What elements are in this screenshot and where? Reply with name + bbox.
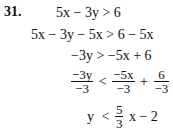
plus: + xyxy=(140,74,148,90)
step-5: y < 5 3 x − 2 xyxy=(87,103,160,130)
fraction-term1: −5x −3 xyxy=(112,68,134,95)
remainder: x − 2 xyxy=(129,109,158,125)
step-3: −3y > −5x + 6 xyxy=(71,48,152,64)
fraction-lhs: −3y −3 xyxy=(71,68,93,95)
relation: < xyxy=(102,109,110,125)
step-2: 5x − 3y − 5x > 6 − 5x xyxy=(31,27,154,43)
step-4: −3y −3 < −5x −3 + 6 −3 xyxy=(71,68,169,95)
fraction-coefficient: 5 3 xyxy=(115,103,124,130)
fraction-term2: 6 −3 xyxy=(154,68,170,95)
step-1: 5x − 3y > 6 xyxy=(56,5,121,21)
relation: < xyxy=(99,74,107,90)
problem-number: 31. xyxy=(4,4,22,20)
lhs: y xyxy=(87,109,94,125)
